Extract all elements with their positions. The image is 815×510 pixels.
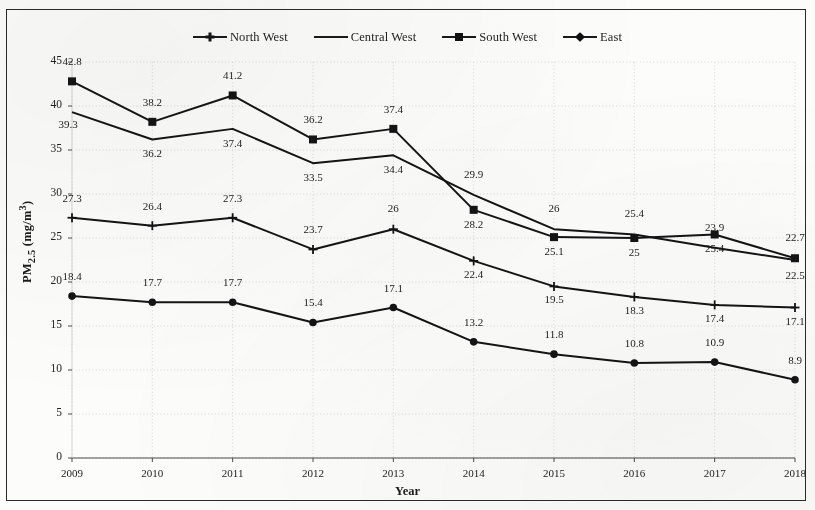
x-tick-label: 2010 [117, 467, 187, 479]
data-point-label: 28.2 [453, 218, 495, 230]
data-point-label: 39.3 [47, 118, 89, 130]
data-point-label: 25.4 [613, 207, 655, 219]
data-point-label: 17.1 [774, 315, 815, 327]
x-tick-label: 2012 [278, 467, 348, 479]
data-point-label: 26.4 [131, 200, 173, 212]
chart-canvas [0, 0, 815, 510]
data-point-label: 41.2 [212, 69, 254, 81]
data-point-label: 27.3 [212, 192, 254, 204]
y-tick-label: 5 [26, 406, 62, 418]
data-point-label: 27.3 [51, 192, 93, 204]
figure-container: North West Central West South West East … [0, 0, 815, 510]
data-point-label: 37.4 [212, 137, 254, 149]
y-tick-label: 10 [26, 362, 62, 374]
x-tick-label: 2009 [37, 467, 107, 479]
data-point-label: 19.5 [533, 293, 575, 305]
x-tick-label: 2013 [358, 467, 428, 479]
data-point-label: 22.7 [774, 231, 815, 243]
data-point-label: 18.4 [51, 270, 93, 282]
x-tick-label: 2018 [760, 467, 815, 479]
data-point-label: 15.4 [292, 296, 334, 308]
data-point-label: 29.9 [453, 168, 495, 180]
data-point-label: 25 [613, 246, 655, 258]
data-point-label: 13.2 [453, 316, 495, 328]
data-point-label: 26 [372, 202, 414, 214]
y-tick-label: 25 [26, 230, 62, 242]
y-tick-label: 40 [26, 98, 62, 110]
data-point-label: 10.8 [613, 337, 655, 349]
data-point-label: 36.2 [131, 147, 173, 159]
x-tick-label: 2017 [680, 467, 750, 479]
data-point-label: 18.3 [613, 304, 655, 316]
x-axis-title: Year [0, 484, 815, 499]
y-tick-label: 15 [26, 318, 62, 330]
data-point-label: 37.4 [372, 103, 414, 115]
data-point-label: 38.2 [131, 96, 173, 108]
data-point-label: 23.7 [292, 223, 334, 235]
data-point-label: 23.9 [694, 221, 736, 233]
data-point-label: 17.7 [212, 276, 254, 288]
x-tick-label: 2011 [198, 467, 268, 479]
data-point-label: 17.1 [372, 282, 414, 294]
data-point-label: 33.5 [292, 171, 334, 183]
data-point-label: 36.2 [292, 113, 334, 125]
data-point-label: 17.7 [131, 276, 173, 288]
data-point-label: 8.9 [774, 354, 815, 366]
data-point-label: 25.1 [533, 245, 575, 257]
data-point-label: 34.4 [372, 163, 414, 175]
y-tick-label: 0 [26, 450, 62, 462]
data-point-label: 26 [533, 202, 575, 214]
data-point-label: 22.5 [774, 269, 815, 281]
plot-area: PM2.5 (mg/m3) 05101520253035404520092010… [0, 0, 815, 510]
data-point-label: 11.8 [533, 328, 575, 340]
x-tick-label: 2014 [439, 467, 509, 479]
x-tick-label: 2016 [599, 467, 669, 479]
x-tick-label: 2015 [519, 467, 589, 479]
data-point-label: 42.8 [51, 55, 93, 67]
data-point-label: 25.4 [694, 242, 736, 254]
data-point-label: 17.4 [694, 312, 736, 324]
y-tick-label: 35 [26, 142, 62, 154]
data-point-label: 22.4 [453, 268, 495, 280]
data-point-label: 10.9 [694, 336, 736, 348]
